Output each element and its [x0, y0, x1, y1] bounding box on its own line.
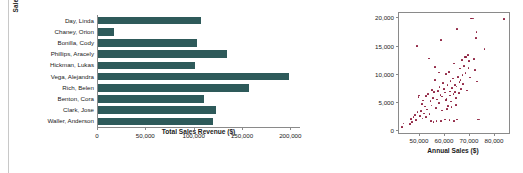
scatter-chart-point	[452, 78, 454, 80]
bar-chart-category-label: Rich, Belen	[22, 85, 94, 91]
scatter-chart-point	[456, 86, 458, 88]
scatter-chart-point	[479, 119, 481, 121]
scatter-chart-point	[449, 119, 451, 121]
scatter-chart-point	[455, 104, 457, 106]
scatter-chart-point	[428, 58, 430, 60]
bar-chart-bar	[98, 39, 197, 47]
scatter-chart-point	[426, 109, 428, 111]
scatter-chart-point	[418, 96, 420, 98]
scatter-chart-point	[440, 39, 442, 41]
scatter-chart-point	[423, 113, 425, 115]
scatter-chart-point	[414, 114, 416, 116]
bar-chart-panel: Salesperson Name Day, LindaChaney, Orion…	[0, 0, 305, 173]
bar-chart-category-label: Clark, Jose	[22, 107, 94, 113]
scatter-chart-x-tick	[419, 133, 420, 136]
scatter-chart-x-tick-label: 80,000	[485, 137, 504, 144]
scatter-chart-y-tick	[396, 74, 399, 75]
scatter-chart-point	[413, 116, 415, 118]
scatter-chart-point	[435, 107, 437, 109]
scatter-chart-point	[430, 100, 432, 102]
scatter-chart-y-tick-label: 10,000	[375, 70, 394, 77]
scatter-chart-point	[456, 119, 458, 121]
bar-chart-bar	[98, 17, 201, 25]
bar-chart-bar	[98, 50, 227, 58]
scatter-chart-point	[411, 121, 413, 123]
scatter-chart-point	[422, 100, 424, 102]
scatter-chart-point	[448, 71, 450, 73]
bar-chart-bar	[98, 28, 114, 36]
scatter-chart-point	[427, 93, 429, 95]
scatter-chart-point	[444, 119, 446, 121]
scatter-chart-plot-area: 05,00010,00015,00020,00050,00060,00070,0…	[398, 12, 510, 134]
scatter-chart-point	[401, 126, 403, 128]
scatter-chart-point	[451, 87, 453, 89]
scatter-chart-point	[451, 106, 453, 108]
bar-chart-category-label: Chaney, Orion	[22, 29, 94, 35]
scatter-chart-point	[433, 91, 435, 93]
scatter-chart-point	[446, 108, 448, 110]
scatter-chart-point	[429, 113, 431, 115]
scatter-chart-point	[447, 84, 449, 86]
scatter-chart-point	[425, 116, 427, 118]
scatter-chart-point	[476, 31, 478, 33]
bar-chart-plot-area: 050,000100,000150,000200,000	[97, 15, 300, 127]
scatter-chart-point	[459, 81, 461, 83]
scatter-chart-panel: Variable Pay ($) 05,00010,00015,00020,00…	[320, 0, 523, 173]
bar-chart-bar	[98, 62, 195, 70]
scatter-chart-point	[415, 119, 417, 121]
scatter-chart-point	[409, 123, 411, 125]
bar-chart-category-labels: Day, LindaChaney, OrionBonilla, CodyPhil…	[22, 15, 94, 127]
scatter-chart-point	[425, 95, 427, 97]
scatter-chart-y-tick-label: 15,000	[375, 42, 394, 49]
scatter-chart-point	[419, 115, 421, 117]
scatter-chart-point	[459, 68, 461, 70]
scatter-chart-x-tick	[444, 133, 445, 136]
scatter-chart-point	[444, 92, 446, 94]
scatter-chart-point	[461, 59, 463, 61]
scatter-chart-point	[432, 97, 434, 99]
bar-chart-bar	[98, 73, 289, 81]
scatter-chart-point	[474, 69, 476, 71]
scatter-chart-point	[441, 110, 443, 112]
scatter-chart-point	[437, 90, 439, 92]
scatter-chart-point	[457, 76, 459, 78]
scatter-chart-point	[430, 120, 432, 122]
scatter-chart-point	[417, 111, 419, 113]
scatter-chart-point	[434, 66, 436, 68]
bar-chart-bar	[98, 106, 216, 114]
scatter-chart-x-tick-label: 50,000	[410, 137, 429, 144]
bar-chart-category-label: Hickman, Lukas	[22, 62, 94, 68]
scatter-chart-point	[442, 82, 444, 84]
scatter-chart-point	[460, 79, 462, 81]
scatter-chart-point	[438, 102, 440, 104]
scatter-chart-point	[449, 91, 451, 93]
scatter-chart-point	[463, 65, 465, 67]
scatter-chart-point	[439, 86, 441, 88]
scatter-chart-point	[473, 18, 475, 20]
scatter-chart-point	[436, 99, 438, 101]
scatter-chart-point	[453, 63, 455, 65]
scatter-chart-point	[454, 91, 456, 93]
scatter-chart-point	[434, 79, 436, 81]
bar-chart-category-label: Vega, Alejandra	[22, 74, 94, 80]
scatter-chart-point	[450, 101, 452, 103]
scatter-chart-point	[422, 118, 424, 120]
scatter-chart-point	[445, 73, 447, 75]
scatter-chart-point	[447, 105, 449, 107]
scatter-chart-point	[462, 74, 464, 76]
scatter-chart-point	[465, 72, 467, 74]
scatter-chart-x-axis-label: Annual Sales ($)	[398, 147, 508, 154]
scatter-chart-point	[433, 121, 435, 123]
scatter-chart-point	[438, 72, 440, 74]
bar-chart-category-label: Bonilla, Cody	[22, 40, 94, 46]
scatter-chart-point	[458, 92, 460, 94]
scatter-chart-point	[431, 105, 433, 107]
scatter-chart-point	[484, 48, 486, 50]
scatter-chart-y-tick	[396, 102, 399, 103]
scatter-chart-y-tick-label: 20,000	[375, 14, 394, 21]
scatter-chart-point	[420, 110, 422, 112]
scatter-chart-y-tick	[396, 46, 399, 47]
scatter-chart-point	[469, 77, 471, 79]
scatter-chart-y-tick-label: 0	[391, 126, 394, 133]
scatter-chart-point	[475, 37, 477, 39]
